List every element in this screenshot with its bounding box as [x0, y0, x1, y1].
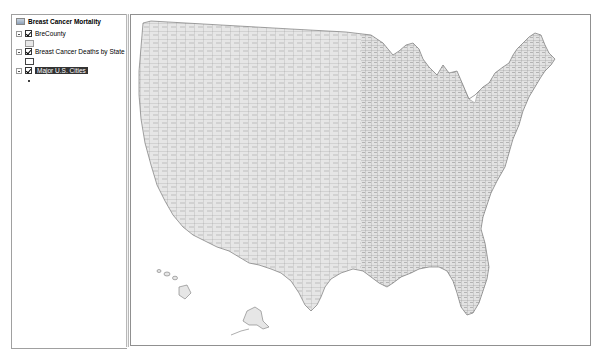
collapse-icon[interactable] [16, 49, 22, 55]
state-outline-swatch [25, 58, 34, 65]
collapse-icon[interactable] [16, 31, 22, 37]
layer-label: Major U.S. Cities [35, 67, 88, 74]
layer-visibility-checkbox[interactable] [25, 48, 32, 55]
alaska-inset [231, 307, 269, 335]
layer-visibility-checkbox[interactable] [25, 30, 32, 37]
panel-splitter[interactable] [126, 14, 129, 347]
city-point-symbol [28, 80, 30, 82]
hawaii-inset [157, 270, 191, 300]
layers-icon [16, 18, 25, 25]
collapse-icon[interactable] [16, 68, 22, 74]
data-frame-label: Breast Cancer Mortality [28, 18, 101, 25]
layer-row-state-deaths[interactable]: Breast Cancer Deaths by State [16, 48, 125, 55]
map-view[interactable] [130, 14, 591, 346]
layer-label: BreCounty [35, 30, 66, 37]
layer-label: Breast Cancer Deaths by State [35, 48, 125, 55]
us-county-map [131, 15, 591, 346]
table-of-contents-panel: Breast Cancer Mortality BreCounty Breast… [11, 14, 127, 349]
layer-row-major-cities[interactable]: Major U.S. Cities [16, 67, 88, 74]
county-fill-swatch [25, 40, 34, 47]
layer-visibility-checkbox[interactable] [25, 67, 32, 74]
data-frame-row[interactable]: Breast Cancer Mortality [16, 18, 101, 25]
layer-row-brecounty[interactable]: BreCounty [16, 30, 66, 37]
